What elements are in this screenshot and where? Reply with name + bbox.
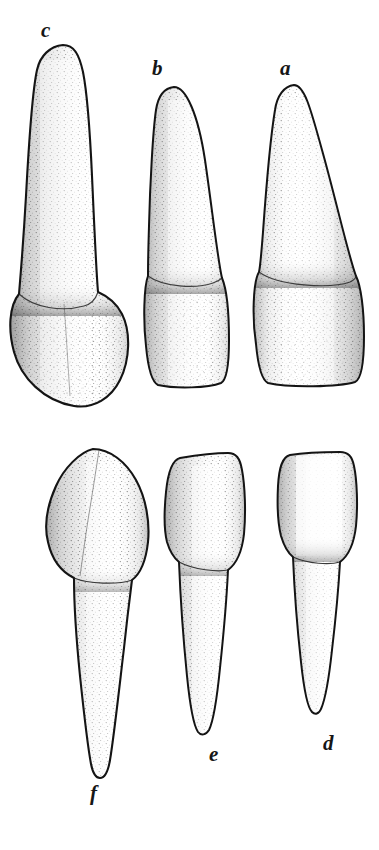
tooth-plate-drawing [0, 0, 379, 850]
figure-label-e: e [209, 744, 218, 765]
figure-label-b: b [152, 58, 163, 79]
figure-plate: c b a f e d [0, 0, 379, 850]
figure-label-f: f [90, 783, 97, 804]
figure-label-a: a [280, 58, 291, 79]
figure-label-d: d [323, 733, 334, 754]
figure-label-c: c [41, 20, 50, 41]
